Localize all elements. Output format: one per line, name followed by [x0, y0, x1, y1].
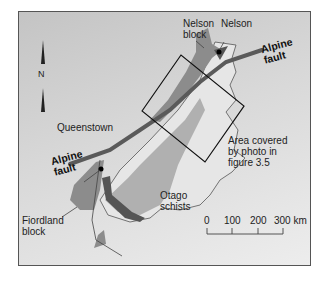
scale-bar — [207, 228, 283, 234]
scale-tick-100: 100 — [224, 215, 241, 226]
scale-tick-300: 300 km — [274, 215, 307, 226]
otago-schists-label: Otagoschists — [160, 190, 191, 212]
nelson-label: Nelson — [221, 18, 252, 29]
queenstown-label: Queenstown — [57, 122, 113, 133]
nelson-block-label: Nelsonblock — [183, 18, 214, 40]
fiordland-block-label: Fiordlandblock — [22, 215, 64, 237]
scale-tick-0: 0 — [204, 215, 210, 226]
north-label: N — [38, 69, 45, 80]
area-covered-label: Area coveredby photo infigure 3.5 — [228, 135, 287, 168]
scale-tick-200: 200 — [250, 215, 267, 226]
nelson-dot — [217, 50, 222, 55]
